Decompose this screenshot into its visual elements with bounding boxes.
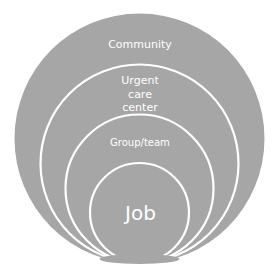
label-group-team: Group/team — [110, 137, 170, 148]
label-urgent-care-line1: Urgent — [121, 74, 159, 87]
tangent-blend — [100, 254, 180, 264]
label-community: Community — [108, 38, 172, 51]
nested-circles-diagram: Community Urgent care center Group/team … — [0, 0, 279, 274]
label-urgent-care-line3: center — [122, 101, 158, 114]
label-job: Job — [123, 201, 156, 225]
label-urgent-care-line2: care — [128, 88, 152, 101]
